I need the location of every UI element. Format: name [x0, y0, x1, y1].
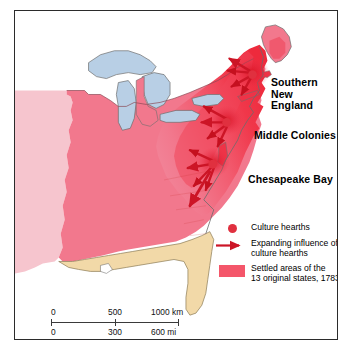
label-middle-colonies: Middle Colonies: [254, 130, 336, 142]
legend-settled-swatch-icon: [213, 264, 251, 277]
scale-km-mid: 500: [108, 307, 122, 317]
scale-mi-numbers: 0 300 600 mi: [47, 327, 189, 338]
scale-km-end: 1000 km: [151, 307, 183, 317]
scale-mi-end: 600 mi: [151, 327, 176, 337]
scale-km-start: 0: [51, 307, 56, 317]
legend-label-settled-areas: Settled areas of the 13 original states,…: [251, 264, 338, 283]
label-southern-new-england: Southern New England: [271, 77, 337, 112]
hearth-dot-middle-colonies: [222, 118, 231, 127]
legend-label-culture-hearths: Culture hearths: [251, 223, 310, 233]
legend-arrow-icon: [213, 239, 251, 251]
scale-mi-mid: 300: [108, 327, 122, 337]
map-figure: Southern New England Middle Colonies Che…: [0, 0, 352, 352]
legend-label-expanding-influence: Expanding influence of culture hearths: [251, 239, 338, 258]
legend-item-expanding-influence: Expanding influence of culture hearths: [213, 239, 338, 258]
scale-rule-graphic: [47, 318, 189, 327]
scale-km-numbers: 0 500 1000 km: [47, 307, 189, 318]
legend-item-settled-areas: Settled areas of the 13 original states,…: [213, 264, 338, 283]
scale-bar: 0 500 1000 km 0 300 600 mi: [47, 307, 189, 338]
map-frame-border: Southern New England Middle Colonies Che…: [14, 10, 338, 340]
hearth-dot-new-england: [248, 70, 257, 79]
scale-mi-start: 0: [51, 327, 56, 337]
map-legend: Culture hearths Expanding influence of c…: [213, 223, 338, 289]
label-chesapeake-bay: Chesapeake Bay: [248, 174, 333, 186]
hearth-dot-chesapeake: [208, 160, 217, 169]
legend-item-culture-hearths: Culture hearths: [213, 223, 338, 233]
legend-hearth-dot-icon: [213, 223, 251, 233]
